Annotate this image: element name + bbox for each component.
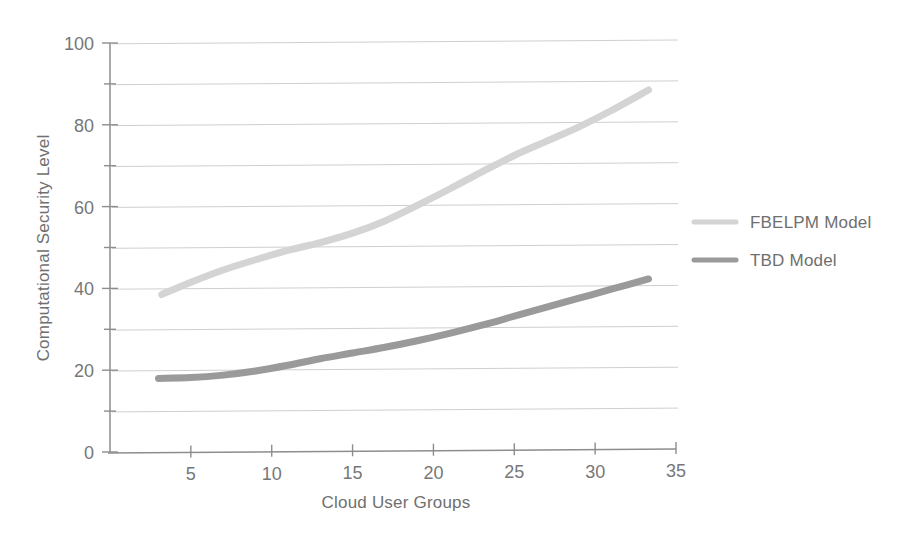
x-tick-label: 15 xyxy=(343,463,363,483)
legend-label: TBD Model xyxy=(750,251,837,270)
x-tick-label: 10 xyxy=(262,464,282,484)
series-line-fbelpm-model xyxy=(162,90,649,295)
x-axis-line xyxy=(108,449,676,453)
gridline xyxy=(112,367,678,371)
x-tick-label: 25 xyxy=(504,462,524,482)
x-tick-label: 35 xyxy=(666,461,686,481)
gridline xyxy=(112,163,678,167)
gridline xyxy=(112,204,678,208)
chart-figure: 020406080100 5101520253035 Cloud User Gr… xyxy=(0,0,916,545)
legend-label: FBELPM Model xyxy=(750,213,871,232)
gridlines xyxy=(112,40,678,412)
x-tick-label: 30 xyxy=(585,462,605,482)
line-chart-svg: 020406080100 5101520253035 Cloud User Gr… xyxy=(0,0,916,545)
gridline xyxy=(112,326,678,330)
data-series xyxy=(159,90,649,378)
y-tick-label: 40 xyxy=(74,279,94,299)
gridline xyxy=(112,40,678,44)
y-axis-title: Computational Security Level xyxy=(34,135,53,362)
y-tick-label: 80 xyxy=(74,116,94,136)
y-axis-tick-labels: 020406080100 xyxy=(64,34,94,463)
x-tick-label: 20 xyxy=(423,463,443,483)
y-tick-label: 100 xyxy=(64,34,94,54)
gridline xyxy=(112,81,678,85)
y-tick-label: 20 xyxy=(74,361,94,381)
x-axis-title: Cloud User Groups xyxy=(322,493,471,512)
x-axis-tick-labels: 5101520253035 xyxy=(186,461,686,484)
y-tick-label: 60 xyxy=(74,198,94,218)
gridline xyxy=(112,245,678,249)
gridline xyxy=(112,285,678,289)
series-line-tbd-model xyxy=(159,279,649,378)
gridline xyxy=(112,408,678,412)
legend: FBELPM ModelTBD Model xyxy=(694,213,871,270)
y-tick-label: 0 xyxy=(84,443,94,463)
x-tick-label: 5 xyxy=(186,464,196,484)
